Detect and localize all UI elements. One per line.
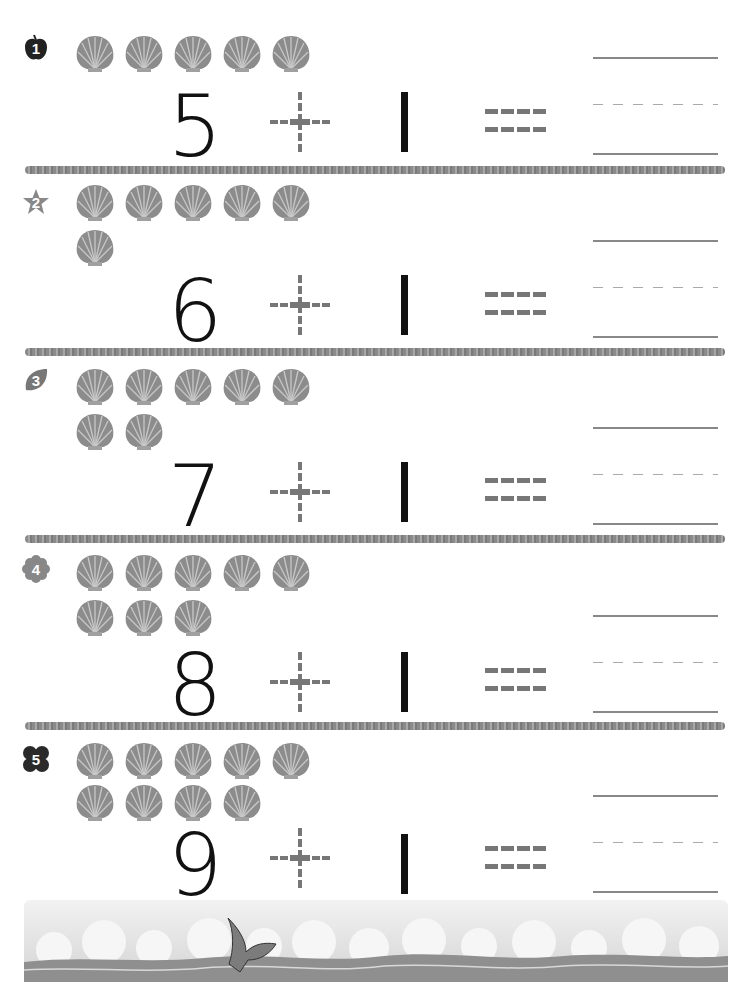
shell-icon [123, 366, 165, 408]
flower-icon: 4 [22, 555, 50, 583]
problem-number: 1 [32, 40, 40, 57]
shell-icon [221, 182, 263, 224]
shell-icon [221, 552, 263, 594]
plus-sign-traceable [270, 275, 330, 335]
addend-one [401, 652, 408, 712]
addend-traceable: 9 [160, 822, 230, 908]
shell-icon [74, 552, 116, 594]
shell-icon [74, 597, 116, 639]
shell-icon [221, 366, 263, 408]
shell-icon [172, 552, 214, 594]
problem-number: 2 [32, 194, 40, 211]
star-icon: 2 [22, 188, 50, 216]
shell-icon [123, 182, 165, 224]
row-divider [25, 535, 725, 543]
plus-sign-traceable [270, 462, 330, 522]
leaf-icon: 3 [22, 366, 50, 394]
shell-icon [123, 552, 165, 594]
problem-number: 4 [32, 561, 40, 578]
row-divider [25, 348, 725, 356]
shell-icon [221, 782, 263, 824]
equals-sign-traceable [485, 109, 547, 145]
addend-one [401, 92, 408, 152]
problem-number: 3 [32, 372, 40, 389]
butterfly-icon: 5 [22, 745, 50, 773]
addend-traceable: 6 [160, 268, 230, 354]
shell-icon [221, 33, 263, 75]
shell-icon [74, 227, 116, 269]
shell-icon [74, 782, 116, 824]
problem-number: 5 [32, 751, 40, 768]
addend-one [401, 462, 408, 522]
shell-icon [172, 366, 214, 408]
equals-sign-traceable [485, 478, 547, 514]
addend-one [401, 834, 408, 894]
shell-icon [74, 366, 116, 408]
answer-writing-lines[interactable] [593, 427, 718, 525]
answer-writing-lines[interactable] [593, 795, 718, 893]
equals-sign-traceable [485, 668, 547, 704]
shell-icon [172, 33, 214, 75]
shell-icon [172, 182, 214, 224]
shell-icon [123, 33, 165, 75]
answer-writing-lines[interactable] [593, 240, 718, 338]
shell-icon [123, 597, 165, 639]
shell-icon [172, 597, 214, 639]
shell-icon [172, 740, 214, 782]
shell-icon [270, 33, 312, 75]
shell-icon [221, 740, 263, 782]
shell-icon [123, 411, 165, 453]
shell-icon [270, 182, 312, 224]
ocean-whale-tail-illustration [24, 900, 728, 982]
shell-icon [74, 411, 116, 453]
shell-icon [270, 552, 312, 594]
addend-traceable: 8 [160, 642, 230, 728]
plus-sign-traceable [270, 652, 330, 712]
plus-sign-traceable [270, 92, 330, 152]
answer-writing-lines[interactable] [593, 615, 718, 713]
shell-icon [74, 740, 116, 782]
equals-sign-traceable [485, 292, 547, 328]
equals-sign-traceable [485, 846, 547, 882]
row-divider [25, 722, 725, 730]
row-divider [25, 166, 725, 174]
shell-icon [74, 33, 116, 75]
shell-icon [123, 782, 165, 824]
addend-traceable: 7 [160, 453, 230, 539]
shell-icon [270, 366, 312, 408]
addend-one [401, 275, 408, 335]
apple-icon: 1 [22, 34, 50, 62]
answer-writing-lines[interactable] [593, 57, 718, 155]
shell-icon [74, 182, 116, 224]
shell-icon [270, 740, 312, 782]
plus-sign-traceable [270, 828, 330, 888]
shell-icon [123, 740, 165, 782]
addend-traceable: 5 [160, 83, 230, 169]
